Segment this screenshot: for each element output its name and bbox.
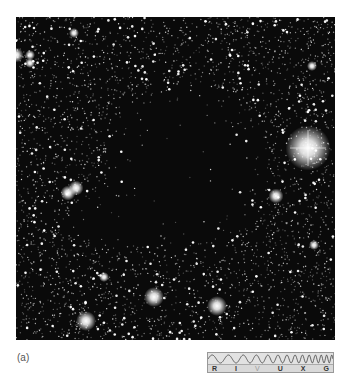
- star-field-canvas: [16, 17, 335, 340]
- band-u: U: [278, 365, 283, 372]
- band-v: V: [255, 365, 260, 372]
- band-g: G: [324, 365, 329, 372]
- panel-label: (a): [17, 352, 29, 363]
- band-i: I: [235, 365, 237, 372]
- spectrum-indicator: R I V U X G: [207, 352, 334, 373]
- spectrum-bands: R I V U X G: [208, 364, 333, 372]
- wave-icon: [208, 353, 333, 364]
- star-field-photo: [16, 17, 335, 340]
- figure: (a) R I V U X G: [0, 0, 352, 375]
- band-x: X: [301, 365, 306, 372]
- band-r: R: [212, 365, 217, 372]
